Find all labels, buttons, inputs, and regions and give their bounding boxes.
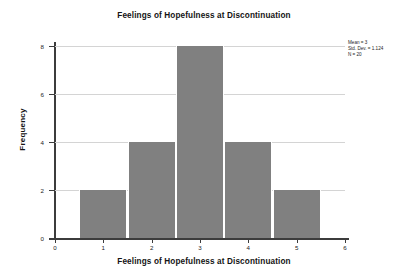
y-tick-mark bbox=[49, 94, 54, 95]
statistics-annotation: Mean = 3 Std. Dev. = 1.124 N = 20 bbox=[348, 40, 406, 58]
y-tick-label: 8 bbox=[22, 43, 44, 50]
x-tick-label: 0 bbox=[45, 244, 65, 251]
x-tick-label: 5 bbox=[287, 244, 307, 251]
x-tick-label: 3 bbox=[190, 244, 210, 251]
x-tick-mark bbox=[200, 239, 201, 243]
x-tick-label: 2 bbox=[142, 244, 162, 251]
histogram-bar bbox=[273, 190, 321, 238]
y-tick-mark bbox=[49, 190, 54, 191]
x-tick-mark bbox=[103, 239, 104, 243]
y-tick-mark bbox=[49, 46, 54, 47]
x-tick-mark bbox=[152, 239, 153, 243]
chart-title: Feelings of Hopefulness at Discontinuati… bbox=[0, 11, 408, 20]
histogram-figure: Feelings of Hopefulness at Discontinuati… bbox=[0, 0, 408, 277]
y-tick-mark bbox=[49, 238, 54, 239]
histogram-bar bbox=[79, 190, 127, 238]
histogram-bar bbox=[176, 46, 224, 238]
x-tick-label: 1 bbox=[93, 244, 113, 251]
x-tick-label: 4 bbox=[238, 244, 258, 251]
histogram-bar bbox=[224, 142, 272, 238]
x-axis-line bbox=[49, 238, 349, 240]
x-axis-title: Feelings of Hopefulness at Discontinuati… bbox=[0, 257, 408, 266]
x-tick-mark bbox=[297, 239, 298, 243]
x-tick-label: 6 bbox=[335, 244, 355, 251]
x-tick-mark bbox=[248, 239, 249, 243]
stat-n: N = 20 bbox=[348, 52, 406, 58]
plot-area bbox=[55, 46, 345, 238]
histogram-bar bbox=[128, 142, 176, 238]
x-tick-mark bbox=[55, 239, 56, 243]
y-tick-label: 0 bbox=[22, 235, 44, 242]
y-axis-title: Frequency bbox=[18, 60, 27, 200]
y-tick-mark bbox=[49, 142, 54, 143]
x-tick-mark bbox=[345, 239, 346, 243]
